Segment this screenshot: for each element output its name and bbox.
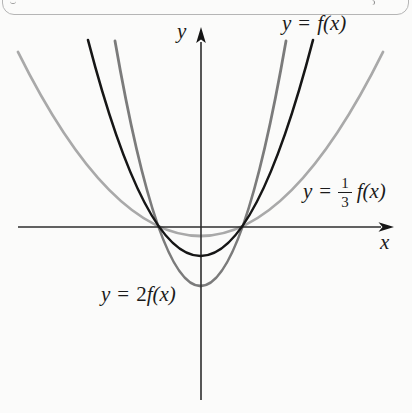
x-axis-label: x	[380, 231, 389, 254]
fraction-denominator: 3	[341, 193, 349, 210]
label-f-rhs: f(x)	[317, 11, 346, 35]
label-2f-equals: =	[117, 282, 129, 306]
y-axis-arrowhead	[196, 27, 206, 43]
y-axis-label: y	[177, 20, 186, 43]
curve-label-f: y=f(x)	[282, 12, 346, 35]
curve-label-2f: y=2f(x)	[101, 283, 176, 306]
label-third-lhs: y	[303, 180, 312, 203]
label-f-equals: =	[298, 11, 310, 35]
label-third-rhs: f(x)	[357, 180, 386, 203]
one-third-fraction: 13	[338, 175, 352, 210]
fraction-numerator: 1	[338, 175, 352, 193]
label-2f-rhs: f(x)	[147, 282, 176, 306]
label-f-lhs: y	[282, 11, 291, 35]
label-2f-coefficient: 2	[136, 282, 147, 306]
curve-label-one-third-f: y=13f(x)	[303, 169, 386, 215]
label-2f-lhs: y	[101, 282, 110, 306]
function-scaling-figure: y x y=f(x) y=13f(x) y=2f(x)	[0, 0, 412, 413]
x-axis-label-text: x	[380, 230, 389, 254]
label-third-equals: =	[319, 180, 331, 203]
y-axis-label-text: y	[177, 19, 186, 43]
